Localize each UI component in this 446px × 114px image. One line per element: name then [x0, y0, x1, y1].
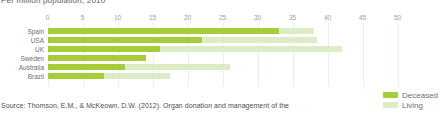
bar-deceased-uk [48, 46, 160, 52]
x-tick-label-30: 30 [254, 14, 261, 21]
source-citation: Source: Thomson, E.M., & McKeown, D.W. (… [1, 102, 289, 109]
x-tick-label-45: 45 [359, 14, 366, 21]
x-tick-label-35: 35 [289, 14, 296, 21]
x-tick-label-0: 0 [46, 14, 50, 21]
legend-item-deceased: Deceased [383, 90, 444, 100]
category-label-sweden: Sweden [0, 55, 44, 62]
bar-deceased-sweden [48, 55, 146, 61]
gridline-45 [363, 23, 364, 86]
living-swatch-icon [383, 102, 398, 108]
x-tick-label-10: 10 [114, 14, 121, 21]
legend: Deceased Living [383, 90, 444, 110]
category-label-australia: Australia [0, 64, 44, 71]
bar-deceased-australia [48, 64, 125, 70]
bar-living-brazil [104, 73, 171, 79]
deceased-swatch-icon [383, 92, 398, 98]
chart-figure: Per million population, 2010 05101520253… [0, 0, 446, 114]
gridline-40 [328, 23, 329, 86]
bar-living-spain [279, 28, 314, 34]
bar-deceased-usa [48, 37, 202, 43]
x-tick-label-25: 25 [219, 14, 226, 21]
x-tick-label-50: 50 [394, 14, 401, 21]
category-label-spain: Spain [0, 28, 44, 35]
bar-living-uk [160, 46, 342, 52]
legend-item-living: Living [383, 100, 444, 110]
category-label-brazil: Brazil [0, 73, 44, 80]
category-label-uk: UK [0, 46, 44, 53]
bar-living-usa [202, 37, 318, 43]
x-tick-label-20: 20 [184, 14, 191, 21]
legend-label-deceased: Deceased [402, 91, 444, 100]
x-tick-label-15: 15 [149, 14, 156, 21]
bar-living-australia [125, 64, 230, 70]
category-label-usa: USA [0, 37, 44, 44]
plot-area: 05101520253035404550SpainUSAUKSwedenAust… [0, 0, 446, 100]
x-tick-label-40: 40 [324, 14, 331, 21]
x-tick-label-5: 5 [81, 14, 85, 21]
bar-deceased-brazil [48, 73, 104, 79]
gridline-50 [398, 23, 399, 86]
legend-label-living: Living [402, 101, 444, 110]
bar-deceased-spain [48, 28, 279, 34]
